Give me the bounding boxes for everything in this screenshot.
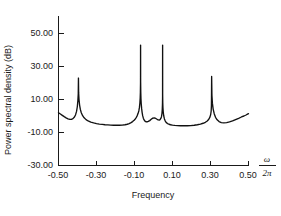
x-tick-label-010: 0.10 [163,170,181,180]
x-axis-title: Frequency [132,190,175,200]
psd-curve [59,45,249,126]
x-axis-unit-numerator: ω [264,154,270,164]
y-tick-label-50: 50.00 [30,28,53,38]
y-tick-label-30: 30.00 [30,61,53,71]
x-tick-label-050: 0.50 [239,170,257,180]
x-tick-label-neg030: -0.30 [86,170,107,180]
y-tick-label-neg30: -30.00 [27,160,53,170]
x-tick-label-030: 0.30 [201,170,219,180]
x-tick-label-neg050: -0.50 [48,170,69,180]
chart-figure: Power spectral density (dB) 50.00 30.00 … [0,0,281,216]
y-tick-label-neg10: -10.00 [27,127,53,137]
x-axis-unit-denominator: 2π [262,168,272,178]
power-spectral-density-chart: Power spectral density (dB) 50.00 30.00 … [0,0,281,216]
x-tick-label-neg010: -0.10 [124,170,145,180]
y-axis-title: Power spectral density (dB) [3,45,13,155]
y-tick-label-10: 10.00 [30,94,53,104]
